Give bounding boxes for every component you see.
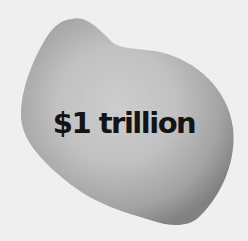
illustration: $1 trillion: [0, 0, 248, 241]
amount-label: $1 trillion: [0, 106, 248, 140]
